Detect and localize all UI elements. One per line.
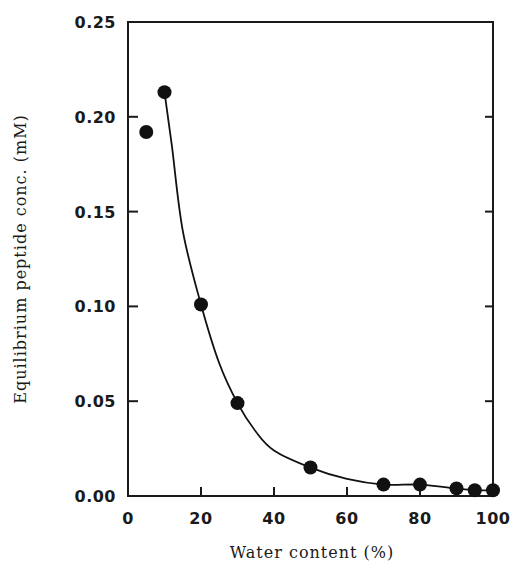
fitted-curve xyxy=(165,92,494,490)
chart: 0.000.050.100.150.200.25 020406080100 Wa… xyxy=(0,0,520,574)
data-point xyxy=(158,85,172,99)
data-point xyxy=(468,483,482,497)
y-tick-label: 0.25 xyxy=(75,13,116,32)
y-axis-title: Equilibrium peptide conc. (mM) xyxy=(11,114,30,404)
x-tick-label: 40 xyxy=(262,509,285,528)
data-point xyxy=(413,478,427,492)
plot-border xyxy=(128,22,493,496)
x-tick-label: 0 xyxy=(122,509,134,528)
y-axis: 0.000.050.100.150.200.25 xyxy=(75,13,493,506)
x-tick-label: 80 xyxy=(408,509,431,528)
x-tick-label: 100 xyxy=(476,509,511,528)
data-point xyxy=(139,125,153,139)
data-point xyxy=(304,461,318,475)
data-points xyxy=(139,85,500,497)
data-point xyxy=(486,483,500,497)
x-tick-label: 60 xyxy=(335,509,358,528)
y-tick-label: 0.15 xyxy=(75,203,116,222)
data-point xyxy=(450,481,464,495)
x-axis-title: Water content (%) xyxy=(230,543,395,562)
x-tick-label: 20 xyxy=(189,509,212,528)
data-point xyxy=(377,478,391,492)
plot-frame xyxy=(128,22,493,496)
data-point xyxy=(231,396,245,410)
fit-line xyxy=(165,92,494,490)
y-tick-label: 0.20 xyxy=(75,108,116,127)
y-tick-label: 0.10 xyxy=(75,297,116,316)
y-tick-label: 0.05 xyxy=(75,392,116,411)
data-point xyxy=(194,298,208,312)
y-tick-label: 0.00 xyxy=(75,487,116,506)
